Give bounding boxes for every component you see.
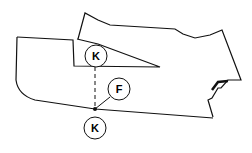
k-bottom-text: K: [91, 122, 99, 134]
f-leader-line: [95, 97, 110, 109]
label-k-top: K: [85, 45, 107, 67]
label-f: F: [108, 78, 130, 100]
pattern-diagram: K F K: [0, 0, 252, 153]
k-top-text: K: [92, 50, 100, 62]
notch-mark: [212, 81, 228, 90]
label-k-bottom: K: [84, 117, 106, 139]
f-text: F: [116, 83, 123, 95]
lower-pattern-outline: [16, 37, 213, 118]
